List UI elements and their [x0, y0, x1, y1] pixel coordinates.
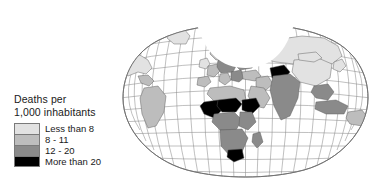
legend-swatch-12-to-20 — [14, 145, 40, 156]
legend-title-line2: 1,000 inhabitants — [14, 106, 134, 119]
globe-body — [118, 8, 371, 180]
legend-item-more-than-20: More than 20 — [14, 156, 134, 167]
legend-item-list: Less than 8 8 - 11 12 - 20 More than 20 — [14, 123, 134, 167]
world-map-figure: Deaths per 1,000 inhabitants Less than 8… — [0, 0, 373, 182]
legend-label-8-to-11: 8 - 11 — [45, 134, 69, 145]
legend-swatch-less-than-8 — [14, 123, 40, 134]
legend-label-12-to-20: 12 - 20 — [45, 145, 75, 156]
legend-item-less-than-8: Less than 8 — [14, 123, 134, 134]
map-legend: Deaths per 1,000 inhabitants Less than 8… — [14, 93, 134, 167]
world-map — [118, 2, 373, 182]
legend-label-less-than-8: Less than 8 — [45, 123, 94, 134]
legend-swatch-more-than-20 — [14, 156, 40, 167]
legend-label-more-than-20: More than 20 — [45, 156, 101, 167]
legend-item-12-to-20: 12 - 20 — [14, 145, 134, 156]
world-map-svg — [118, 2, 373, 182]
legend-swatch-8-to-11 — [14, 134, 40, 145]
region-north-america-east — [118, 43, 142, 57]
legend-item-8-to-11: 8 - 11 — [14, 134, 134, 145]
legend-title-line1: Deaths per — [14, 93, 134, 106]
